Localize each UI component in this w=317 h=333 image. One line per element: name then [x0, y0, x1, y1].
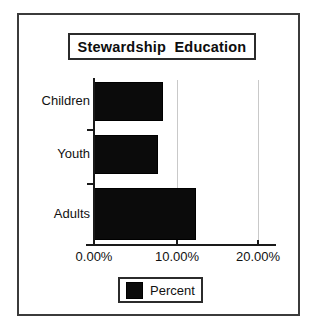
y-axis-tick-1 — [87, 129, 95, 131]
chart-title-box: Stewardship Education — [68, 33, 256, 60]
category-label-children: Children — [18, 93, 90, 108]
legend-swatch-percent — [126, 282, 143, 299]
plot-area — [94, 80, 276, 243]
category-label-adults: Adults — [18, 206, 90, 221]
y-axis-line — [93, 78, 95, 245]
chart-legend: Percent — [118, 277, 203, 303]
category-axis-labels: Children Youth Adults — [14, 80, 90, 243]
page-title: Stewardship Education — [78, 39, 247, 55]
x-axis-tick-0 — [93, 240, 95, 246]
x-axis-tick-20 — [257, 240, 259, 246]
x-axis-tick-10 — [176, 240, 178, 246]
x-tick-label-20: 20.00% — [220, 249, 296, 264]
y-axis-tick-2 — [87, 183, 95, 185]
x-axis-line — [86, 244, 276, 246]
chart-screenshot: Stewardship Education Children Youth Adu… — [0, 0, 317, 333]
gridline-20-percent — [258, 80, 259, 243]
x-tick-label-0: 0.00% — [56, 249, 132, 264]
bar-adults — [94, 188, 196, 240]
bar-youth — [94, 135, 158, 174]
x-tick-label-10: 10.00% — [139, 249, 215, 264]
bar-children — [94, 82, 163, 121]
category-label-youth: Youth — [18, 146, 90, 161]
legend-label-percent: Percent — [150, 283, 195, 298]
